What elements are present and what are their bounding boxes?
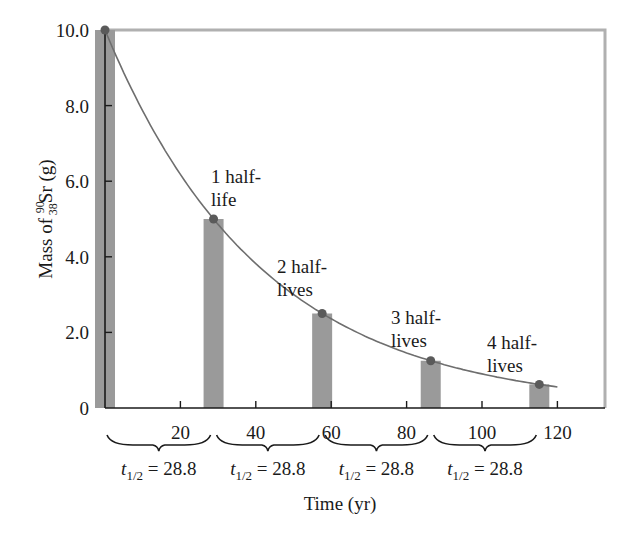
- half-life-value: = 28.8: [469, 458, 522, 479]
- half-life-value: = 28.8: [252, 458, 305, 479]
- annotation-line2: life: [211, 189, 236, 210]
- y-label-symbol: Sr: [35, 186, 56, 204]
- half-life-subscript: 1/2: [126, 468, 143, 483]
- y-tick-label: 0: [80, 398, 90, 419]
- half-life-value: = 28.8: [361, 458, 414, 479]
- half-life-value: = 28.8: [143, 458, 196, 479]
- bars: [95, 30, 549, 408]
- y-label-prefix: Mass of: [35, 213, 56, 278]
- data-point-4: [535, 380, 544, 389]
- half-life-subscript: 1/2: [235, 468, 252, 483]
- x-axis-label: Time (yr): [304, 493, 377, 515]
- data-point-1: [209, 215, 218, 224]
- data-point-3: [426, 356, 435, 365]
- half-life-subscript: 1/2: [453, 468, 470, 483]
- annotation-line1: 4 half-: [487, 332, 537, 353]
- annotation-line1: 2 half-: [277, 256, 327, 277]
- half-life-label: t1/2 = 28.8: [230, 458, 305, 483]
- x-tick-label: 80: [397, 422, 416, 443]
- x-tick-label: 20: [171, 422, 190, 443]
- half-life-label: t1/2 = 28.8: [447, 458, 522, 483]
- half-life-subscript: 1/2: [344, 468, 361, 483]
- bar-3: [421, 361, 441, 408]
- half-life-annotations: 1 half-life2 half-lives3 half-lives4 hal…: [211, 166, 537, 376]
- y-axis-label-text: Mass of 9038Sr (g): [33, 159, 60, 278]
- brace-0: [107, 435, 211, 451]
- x-tick-label: 60: [322, 422, 341, 443]
- half-life-decay-chart: 02.04.06.08.010.0 20406080100120 1 half-…: [0, 0, 630, 537]
- half-life-label: t1/2 = 28.8: [339, 458, 414, 483]
- y-axis-label: Mass of 9038Sr (g): [33, 159, 60, 278]
- data-point-0: [101, 26, 110, 35]
- y-label-atomic-number: 38: [46, 203, 60, 215]
- annotation-line2: lives: [487, 355, 523, 376]
- annotation-line1: 3 half-: [391, 307, 441, 328]
- x-tick-label: 100: [468, 422, 497, 443]
- annotation-line1: 1 half-: [211, 166, 261, 187]
- bar-1: [204, 219, 224, 408]
- y-tick-label: 4.0: [65, 247, 89, 268]
- y-label-suffix: (g): [35, 159, 57, 186]
- brace-1: [217, 435, 320, 451]
- half-life-label: t1/2 = 28.8: [121, 458, 196, 483]
- y-tick-label: 2.0: [65, 322, 89, 343]
- annotation-line2: lives: [277, 279, 313, 300]
- x-tick-label: 120: [543, 422, 572, 443]
- data-point-2: [318, 309, 327, 318]
- bar-2: [312, 314, 332, 409]
- y-tick-label: 8.0: [65, 96, 89, 117]
- y-tick-label: 10.0: [56, 20, 89, 41]
- y-tick-label: 6.0: [65, 171, 89, 192]
- annotation-line2: lives: [391, 330, 427, 351]
- x-tick-label: 40: [246, 422, 265, 443]
